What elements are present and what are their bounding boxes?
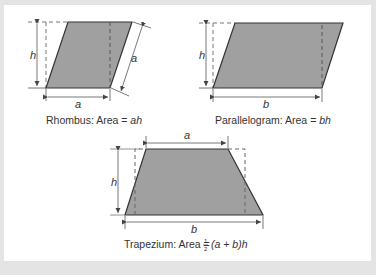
area-diagrams: h a a Rhombus: Area = ah h b Parallelogr… [0,0,376,275]
rhombus-height-label: h [30,49,36,61]
svg-text:(a + b)h: (a + b)h [211,238,248,250]
trapezium-shape [125,149,263,215]
rhombus-figure: h a a Rhombus: Area = ah [28,22,151,126]
parallelogram-figure: h b Parallelogram: Area = bh [199,23,343,126]
parallelogram-base-label: b [263,98,269,110]
rhombus-slant-label: a [131,52,137,64]
trapezium-figure: h a b Trapezium: Area = 1 2 (a + b)h [110,129,263,252]
trapezium-height-label: h [111,176,117,188]
parallelogram-height-label: h [199,49,205,61]
trapezium-caption: Trapezium: Area = 1 2 (a + b)h [124,238,248,252]
trapezium-base-label: b [191,223,197,235]
figure-caption [6,268,372,275]
rhombus-side-label: a [75,98,81,110]
rhombus-shape [46,22,132,88]
rhombus-caption: Rhombus: Area = ah [46,114,142,126]
parallelogram-caption: Parallelogram: Area = bh [215,114,331,126]
svg-text:Trapezium: Area =: Trapezium: Area = [124,238,210,250]
parallelogram-shape [213,23,343,88]
trapezium-top-label: a [184,129,190,141]
